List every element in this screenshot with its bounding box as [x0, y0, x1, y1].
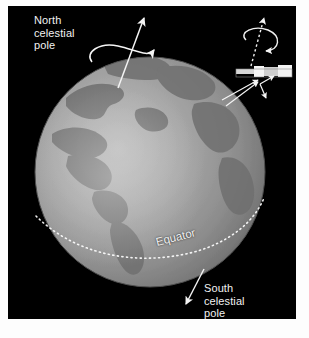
diagram-vector-layer: [8, 6, 296, 319]
label-south-celestial-pole: South celestial pole: [204, 282, 245, 319]
astronomy-diagram-panel: North celestial pole South celestial pol…: [8, 6, 296, 319]
satellite-body: [236, 65, 292, 77]
figure-canvas: North celestial pole South celestial pol…: [0, 0, 309, 338]
earth-globe-icon: [35, 56, 265, 287]
label-north-celestial-pole: North celestial pole: [34, 14, 75, 52]
